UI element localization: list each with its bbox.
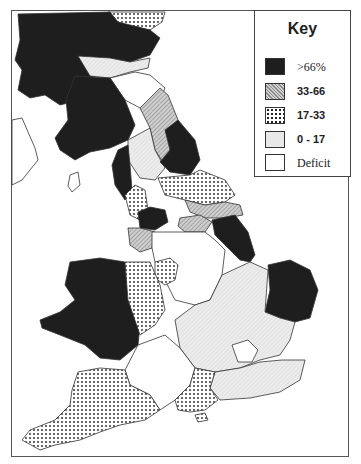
key-item-33-66: 33-66 (265, 83, 350, 103)
map-key: Key >66% 33-66 17-33 0 - 17 Deficit (254, 10, 351, 177)
region-cheshire (128, 228, 155, 252)
key-label: 33-66 (297, 85, 325, 97)
region-wales (40, 258, 140, 360)
solid-dark-swatch-icon (265, 58, 285, 75)
region-greater-manchester (138, 207, 168, 230)
dots-swatch-icon (265, 107, 285, 124)
key-item-17-33: 17-33 (265, 107, 350, 127)
key-label: 0 - 17 (297, 133, 325, 145)
region-norfolk (265, 260, 318, 322)
key-label: >66% (297, 60, 326, 75)
hatch-swatch-icon (265, 83, 285, 100)
key-item-over-66: >66% (265, 58, 350, 78)
light-swatch-icon (265, 131, 285, 148)
region-isle-of-man (68, 172, 80, 192)
key-item-deficit: Deficit (265, 154, 350, 174)
empty-swatch-icon (265, 154, 285, 171)
key-label: Deficit (297, 156, 330, 171)
key-title: Key (255, 20, 350, 38)
key-item-0-17: 0 - 17 (265, 131, 350, 151)
region-isle-of-wight (195, 413, 208, 422)
region-north-yorkshire (158, 170, 235, 205)
key-label: 17-33 (297, 109, 325, 121)
region-northern-ireland-coast (12, 118, 38, 185)
